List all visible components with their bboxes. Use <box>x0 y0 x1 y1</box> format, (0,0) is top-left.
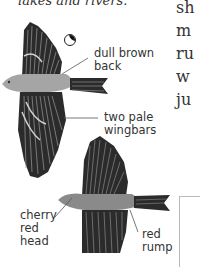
label-line: back <box>94 60 154 73</box>
label-red-rump: red rump <box>142 228 173 254</box>
moon-phase-icon <box>64 34 76 46</box>
label-two-pale-wingbars: two pale wingbars <box>104 111 156 137</box>
inset-frame <box>179 196 200 267</box>
label-dull-brown-back: dull brown back <box>94 47 154 73</box>
label-line: rump <box>142 241 173 254</box>
label-line: wingbars <box>104 124 156 137</box>
label-cherry-red-head: cherry red head <box>20 209 57 248</box>
label-line: head <box>20 235 57 248</box>
